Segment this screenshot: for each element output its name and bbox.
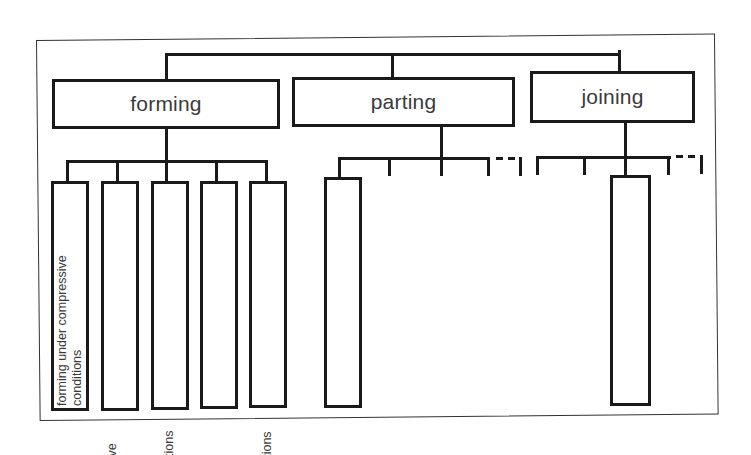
category-forming: forming <box>52 79 280 129</box>
joining-dash-2 <box>688 155 695 158</box>
category-joining: joining <box>530 71 695 123</box>
subcategory-forming-bending: forming by bending <box>200 181 238 409</box>
joining-tick-2 <box>583 156 586 175</box>
forming-tick-5 <box>265 160 268 182</box>
parting-tick-3 <box>440 157 443 176</box>
connector-parting-stem <box>391 53 394 78</box>
forming-tick-4 <box>215 160 218 182</box>
parting-sub-bus <box>338 157 490 160</box>
subcategory-label: forming under compressive conditions <box>55 255 85 406</box>
subcategory-label: forming under tensile conditions <box>162 431 177 455</box>
subcategory-label: forming under compressive and tensile co… <box>105 443 135 455</box>
forming-tick-1 <box>66 160 69 182</box>
subcategory-forming-compressive: forming under compressive conditions <box>51 181 89 411</box>
subcategory-forming-compressive-tensile: forming under compressive and tensile co… <box>101 181 139 411</box>
forming-stem <box>165 128 168 162</box>
subcategory-forming-tensile: forming under tensile conditions <box>151 181 189 410</box>
parting-dash-1 <box>496 157 503 160</box>
joining-tick-4 <box>667 156 670 175</box>
forming-tick-3 <box>165 160 168 182</box>
joining-dash-1 <box>676 155 683 158</box>
parting-tick-4 <box>487 157 490 176</box>
connector-joining-stem <box>618 50 621 73</box>
joining-stem <box>624 122 627 176</box>
category-joining-label: joining <box>581 85 643 109</box>
joining-tick-end <box>700 155 703 174</box>
category-forming-label: forming <box>130 92 201 116</box>
subcategory-joining-through-forming: joining through forming <box>610 175 651 406</box>
parting-tick-end <box>519 157 522 176</box>
parting-dash-2 <box>508 157 515 160</box>
category-parting-label: parting <box>371 90 437 114</box>
category-parting: parting <box>292 77 515 127</box>
parting-tick-2 <box>388 157 391 176</box>
subcategory-forming-shear: forming under shear conditions <box>249 181 287 408</box>
subcategory-label: forming under shear conditions <box>260 431 275 455</box>
parting-stem <box>440 126 443 159</box>
connector-forming-stem <box>165 53 168 80</box>
subcategory-parting-dividing: dividing <box>324 177 362 408</box>
forming-tick-2 <box>116 160 119 182</box>
parting-tick-1 <box>338 157 341 178</box>
joining-sub-bus <box>536 156 671 159</box>
joining-tick-1 <box>536 156 539 175</box>
